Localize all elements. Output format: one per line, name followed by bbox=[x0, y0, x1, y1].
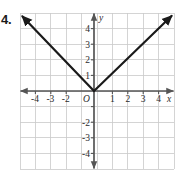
y-tick-label-neg2: -2 bbox=[76, 118, 90, 128]
x-tick-label-3: 3 bbox=[136, 94, 150, 104]
coordinate-plane bbox=[0, 0, 181, 175]
y-tick-label-neg3: -3 bbox=[76, 133, 90, 143]
graph-right-branch bbox=[94, 16, 172, 91]
figure-container: 4. bbox=[0, 0, 181, 175]
x-tick-label-1: 1 bbox=[105, 94, 119, 104]
y-tick-label-2: 2 bbox=[80, 55, 90, 65]
y-axis-name: y bbox=[99, 13, 103, 23]
x-tick-label-2: 2 bbox=[121, 94, 135, 104]
x-tick-label-4: 4 bbox=[152, 94, 166, 104]
x-axis-name: x bbox=[167, 94, 171, 104]
y-tick-label-4: 4 bbox=[80, 24, 90, 34]
origin-label: O bbox=[83, 94, 90, 104]
y-tick-label-3: 3 bbox=[80, 40, 90, 50]
y-tick-label-1: 1 bbox=[80, 71, 90, 81]
x-tick-label-neg2: -2 bbox=[57, 94, 75, 104]
y-tick-label-neg4: -4 bbox=[76, 149, 90, 159]
